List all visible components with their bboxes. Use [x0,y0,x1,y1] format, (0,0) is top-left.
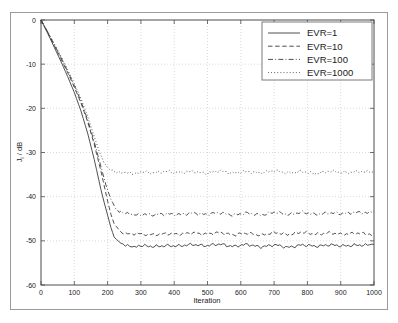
y-tick-label: 0 [32,17,36,24]
legend-label-evr-10: EVR=10 [307,41,343,52]
y-tick-label: -60 [26,282,36,289]
y-tick-label: -20 [26,105,36,112]
figure-root: 01002003004005006007008009001000 0-10-20… [0,0,398,323]
x-axis-tick-labels: 01002003004005006007008009001000 [39,289,382,296]
x-tick-label: 600 [235,289,247,296]
plot-canvas: 01002003004005006007008009001000 0-10-20… [0,0,398,323]
svg-text:Ji / dB: Ji / dB [15,142,25,162]
x-tick-label: 0 [39,289,43,296]
x-tick-label: 700 [268,289,280,296]
legend-label-evr-100: EVR=100 [307,54,348,65]
x-tick-label: 900 [335,289,347,296]
legend-label-evr-1: EVR=1 [307,27,337,38]
y-tick-label: -10 [26,61,36,68]
x-tick-label: 500 [202,289,214,296]
x-axis-title: Iteration [193,296,220,305]
x-tick-label: 100 [68,289,80,296]
y-tick-label: -50 [26,237,36,244]
x-tick-label: 400 [168,289,180,296]
y-axis-title-unit: / dB [15,142,24,157]
y-tick-label: -40 [26,193,36,200]
y-axis-tick-labels: 0-10-20-30-40-50-60 [26,17,36,289]
x-tick-label: 300 [135,289,147,296]
x-tick-label: 1000 [366,289,382,296]
legend[interactable]: EVR=1EVR=10EVR=100EVR=1000 [262,22,372,80]
x-tick-label: 200 [102,289,114,296]
legend-label-evr-1000: EVR=1000 [307,67,353,78]
x-tick-label: 800 [302,289,314,296]
y-axis-title: Ji / dB [15,142,25,162]
y-tick-label: -30 [26,149,36,156]
